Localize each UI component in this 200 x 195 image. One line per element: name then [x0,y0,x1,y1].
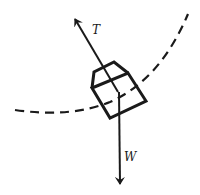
weight-arrow [119,92,120,184]
tension-label: T [92,23,101,37]
weight-label: W [124,150,138,164]
free-body-diagram: T W [0,0,200,195]
